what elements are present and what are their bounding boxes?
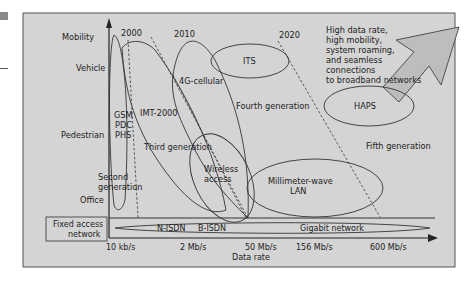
label-haps: HAPS <box>354 101 376 111</box>
note-line-2: high mobility, <box>326 35 382 45</box>
label-mm-wave: Millimeter-wave <box>268 176 333 186</box>
label-lan: LAN <box>290 186 306 196</box>
label-fourth-gen: Fourth generation <box>236 101 310 111</box>
note-line-3: system roaming, <box>326 45 395 55</box>
fixed-b-isdn: B-ISDN <box>198 224 226 233</box>
x-axis-label: Data rate <box>232 253 270 262</box>
y-axis-label: Mobility <box>62 32 94 42</box>
note-line-4: and seamless <box>326 55 382 65</box>
mobility-data-rate-diagram: Mobility Vehicle Pedestrian Office 2000 … <box>0 0 475 283</box>
note-line-1: High data rate, <box>326 25 388 35</box>
tick-600mbs: 600 Mb/s <box>370 243 407 252</box>
label-gsm: GSM <box>114 110 133 120</box>
tick-10kbs: 10 kb/s <box>106 243 135 252</box>
fixed-access-label-2: network <box>68 230 101 239</box>
level-office: Office <box>80 195 104 205</box>
level-pedestrian: Pedestrian <box>61 130 104 140</box>
label-pdc: PDC <box>115 120 132 130</box>
label-phs: PHS <box>115 130 131 140</box>
level-vehicle: Vehicle <box>76 63 105 73</box>
label-generation: generation <box>98 182 143 192</box>
year-2020: 2020 <box>279 30 300 40</box>
label-fifth-gen: Fifth generation <box>366 141 431 151</box>
year-2010: 2010 <box>174 29 195 39</box>
tick-156mbs: 156 Mb/s <box>296 243 333 252</box>
fixed-access-label-1: Fixed access <box>53 220 103 229</box>
label-access: access <box>204 174 232 184</box>
tick-2mbs: 2 Mb/s <box>180 243 206 252</box>
label-its: ITS <box>243 56 256 66</box>
note-line-6: to broadband networks <box>326 75 421 85</box>
fixed-n-isdn: N-ISDN <box>157 224 185 233</box>
year-2000: 2000 <box>121 28 142 38</box>
tick-50mbs: 50 Mb/s <box>245 243 277 252</box>
label-4g-cellular: 4G-cellular <box>179 76 224 86</box>
note-line-5: connections <box>326 65 375 75</box>
label-imt2000: IMT-2000 <box>140 108 178 118</box>
label-second: Second <box>98 172 128 182</box>
label-third-gen: Third generation <box>143 142 212 152</box>
fixed-gigabit: Gigabit network <box>300 224 364 233</box>
label-wireless: Wireless <box>204 164 238 174</box>
